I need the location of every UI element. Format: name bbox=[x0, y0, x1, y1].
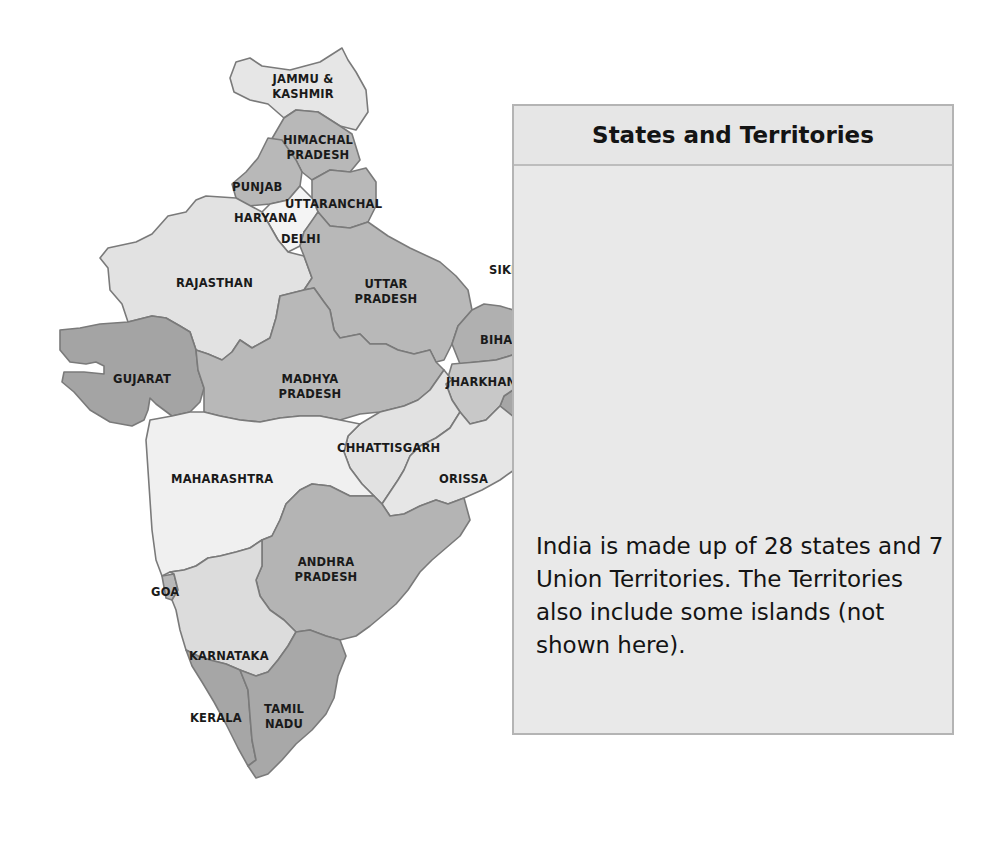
label-punjab: PUNJAB bbox=[232, 180, 283, 195]
label-himachal-pradesh: HIMACHAL PRADESH bbox=[273, 133, 363, 163]
label-text: JAMMU & KASHMIR bbox=[263, 72, 343, 102]
label-andhra-pradesh: ANDHRA PRADESH bbox=[290, 555, 362, 585]
label-madhya-pradesh: MADHYA PRADESH bbox=[272, 372, 348, 402]
region-gujarat bbox=[60, 316, 204, 426]
label-gujarat: GUJARAT bbox=[113, 372, 171, 387]
label-rajasthan: RAJASTHAN bbox=[176, 276, 253, 291]
label-jammu-kashmir: JAMMU & KASHMIR bbox=[263, 72, 343, 102]
label-orissa: ORISSA bbox=[439, 472, 488, 487]
label-tamil-nadu: TAMIL NADU bbox=[260, 702, 308, 732]
label-maharashtra: MAHARASHTRA bbox=[171, 472, 273, 487]
label-haryana: HARYANA bbox=[234, 211, 297, 226]
label-chhattisgarh: CHHATTISGARH bbox=[337, 441, 440, 456]
label-uttar-pradesh: UTTAR PRADESH bbox=[347, 277, 425, 307]
label-uttaranchal: UTTARANCHAL bbox=[285, 197, 382, 212]
info-box-title: States and Territories bbox=[592, 122, 874, 148]
region-andhra-pradesh bbox=[256, 484, 470, 640]
label-kerala: KERALA bbox=[190, 711, 242, 726]
label-delhi: DELHI bbox=[281, 232, 321, 247]
label-karnataka: KARNATAKA bbox=[189, 649, 269, 664]
info-box-header: States and Territories bbox=[514, 106, 952, 166]
info-box-text: India is made up of 28 states and 7 Unio… bbox=[536, 530, 946, 662]
label-goa: GOA bbox=[151, 585, 179, 600]
info-box: States and Territories India is made up … bbox=[512, 104, 954, 735]
